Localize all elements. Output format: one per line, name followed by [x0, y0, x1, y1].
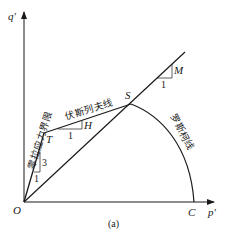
slope-run-1-hvorslev: 1 — [68, 130, 73, 141]
slope-rise-m: M — [173, 64, 184, 76]
roscoe-curve — [131, 104, 194, 202]
point-s-label: S — [125, 89, 131, 101]
point-c-label: C — [188, 206, 196, 218]
state-boundary-diagram: 3 1 H 1 M 1 q' p' O T S C 零拉应力界限 伏斯列夫线 罗… — [0, 0, 232, 242]
figure-caption: (a) — [108, 218, 119, 230]
origin-label: O — [13, 204, 21, 216]
slope-run-1-tension: 1 — [34, 173, 39, 184]
y-axis-label: q' — [8, 10, 17, 22]
slope-run-1-csl: 1 — [161, 79, 166, 90]
slope-rise-3: 3 — [42, 157, 47, 168]
slope-rise-h: H — [83, 119, 93, 131]
x-axis-label: p' — [207, 206, 217, 218]
roscoe-line-label: 罗斯柯线 — [168, 112, 196, 152]
